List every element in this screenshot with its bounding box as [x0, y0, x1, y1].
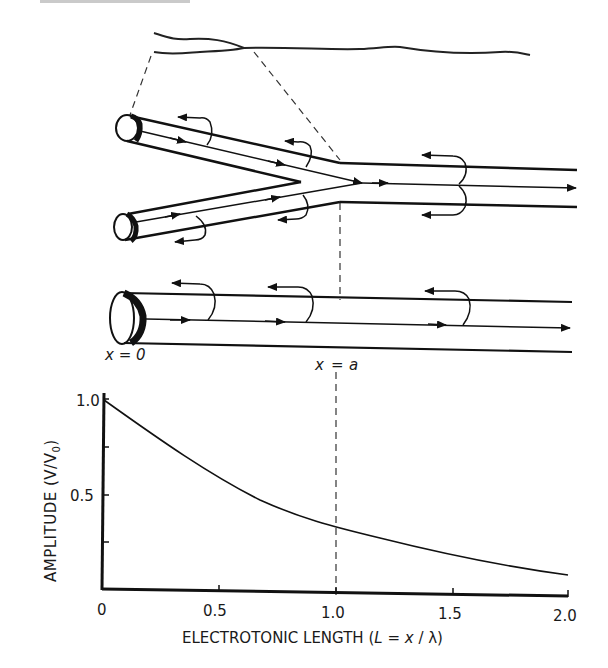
x-tick-label-15: 1.5: [438, 605, 462, 623]
partial-header: [40, 0, 190, 3]
y-axis-title: AMPLITUDE (V/V0): [42, 439, 62, 582]
x-axis: [102, 589, 568, 596]
neuron-trace-sketch: [154, 33, 530, 55]
x-tick-label-05: 0.5: [203, 602, 227, 620]
equivalent-cylinder: [110, 283, 572, 352]
label-x-a: x = a: [314, 356, 358, 374]
projection-lines: [130, 52, 340, 600]
label-x-0: x = 0: [104, 346, 146, 364]
amplitude-chart: 1.0 0.5 0 0.5 1.0 1.5 2.0 AMPLITUDE (V/V…: [42, 392, 577, 647]
electrotonic-figure: x = 0 x = a 1.0 0.5 0 0.5 1.0 1.5 2.0: [0, 0, 608, 668]
svg-text:a: a: [349, 356, 358, 374]
y-axis: [102, 393, 104, 590]
svg-text:x: x: [314, 356, 324, 374]
x-tick-label-2: 2.0: [553, 607, 577, 625]
x-axis-title: ELECTROTONIC LENGTH (L = x / λ): [182, 629, 443, 647]
x-tick-label-1: 1.0: [321, 604, 345, 622]
branching-cable: [114, 115, 577, 242]
y-tick-label-05: 0.5: [70, 487, 94, 505]
svg-text:=: =: [331, 356, 344, 374]
x-tick-label-0: 0: [97, 601, 107, 619]
svg-text:AMPLITUDE (V/V0): AMPLITUDE (V/V0): [42, 439, 62, 582]
y-tick-label-1: 1.0: [76, 392, 100, 410]
